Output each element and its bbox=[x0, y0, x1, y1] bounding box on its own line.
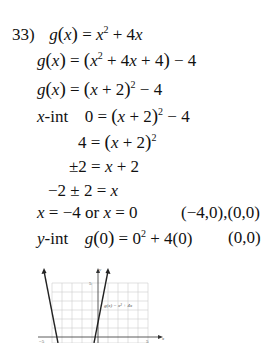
equation-line-4-xint: x-int 0 = (x + 2)2 − 4 bbox=[37, 106, 190, 127]
right-arrow-icon bbox=[106, 268, 111, 274]
parabola-graph: y 5 g(x) = x² + 4x x −5 5 bbox=[30, 265, 170, 343]
equation-line-5: 4 = (x + 2)2 bbox=[78, 132, 156, 153]
parabola-left-branch bbox=[44, 271, 58, 343]
x-tick-neg5: −5 bbox=[39, 339, 45, 343]
equation-line-9-yint: y-int g(0) = 02 + 4(0) bbox=[37, 228, 192, 249]
equation-line-8: x = −4 or x = 0 bbox=[37, 203, 138, 223]
y-axis-label: y bbox=[98, 267, 102, 272]
yint-label: -int bbox=[45, 229, 69, 248]
left-arrow-icon bbox=[42, 268, 47, 274]
equation-line-2: g(x) = (x2 + 4x + 4) − 4 bbox=[37, 50, 196, 71]
problem-number: 33) bbox=[12, 25, 35, 44]
equation-line-7: −2 ± 2 = x bbox=[48, 181, 118, 201]
xint-result: (−4,0),(0,0) bbox=[181, 203, 260, 223]
equation-line-3: g(x) = (x + 2)2 − 4 bbox=[37, 79, 162, 100]
equation-line-1: 33) g(x) = x2 + 4x bbox=[12, 24, 143, 45]
xint-label: -int bbox=[45, 107, 69, 126]
yint-result: (0,0) bbox=[228, 228, 261, 248]
function-label: g(x) = x² + 4x bbox=[104, 303, 133, 308]
equation-line-6: ±2 = x + 2 bbox=[69, 157, 139, 177]
x-tick-5: 5 bbox=[146, 339, 149, 343]
y-tick-5: 5 bbox=[89, 281, 92, 286]
x-axis-label: x bbox=[161, 336, 165, 341]
